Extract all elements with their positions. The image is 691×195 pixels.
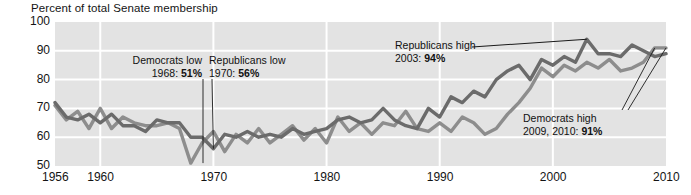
y-tick-label: 90	[22, 43, 50, 57]
x-tick-label: 1980	[314, 170, 341, 184]
annotation-democrats-low: Democrats low 1968: 51%	[130, 54, 202, 79]
x-tick-label: 1956	[42, 170, 69, 184]
senate-membership-line-chart: Percent of total Senate membership 10090…	[0, 0, 691, 195]
annotation-republicans-low-line1: Republicans low	[209, 54, 285, 66]
annotation-democrats-low-line1: Democrats low	[133, 54, 202, 66]
x-tick-label: 1990	[427, 170, 454, 184]
annotation-republicans-low-value: 56%	[238, 67, 259, 79]
y-tick-label: 80	[22, 72, 50, 86]
annotation-republicans-high-year: 2003:	[395, 52, 424, 64]
plot-area	[0, 0, 691, 195]
annotation-republicans-low-line2: 1970: 56%	[209, 67, 285, 80]
annotation-republicans-high-line1: Republicans high	[395, 39, 476, 51]
annotation-democrats-low-line2: 1968: 51%	[130, 67, 202, 80]
annotation-democrats-high-year: 2009, 2010:	[523, 125, 581, 137]
annotation-republicans-high-value: 94%	[424, 52, 445, 64]
annotation-democrats-high-line2: 2009, 2010: 91%	[523, 125, 602, 138]
x-tick-label: 2010	[653, 170, 680, 184]
x-tick-label: 1970	[200, 170, 227, 184]
x-tick-label: 1960	[87, 170, 114, 184]
y-tick-label: 70	[22, 100, 50, 114]
annotation-democrats-low-year: 1968:	[152, 67, 181, 79]
annotation-republicans-low-year: 1970:	[209, 67, 238, 79]
annotation-democrats-low-value: 51%	[181, 67, 202, 79]
y-tick-label: 100	[22, 14, 50, 28]
y-tick-label: 60	[22, 129, 50, 143]
x-tick-label: 2000	[540, 170, 567, 184]
plot-background	[55, 22, 666, 166]
annotation-democrats-high: Democrats high 2009, 2010: 91%	[523, 112, 602, 137]
annotation-republicans-high: Republicans high 2003: 94%	[395, 39, 476, 64]
annotation-republicans-low: Republicans low 1970: 56%	[209, 54, 285, 79]
annotation-republicans-high-line2: 2003: 94%	[395, 52, 476, 65]
annotation-democrats-high-value: 91%	[581, 125, 602, 137]
annotation-democrats-high-line1: Democrats high	[523, 112, 597, 124]
